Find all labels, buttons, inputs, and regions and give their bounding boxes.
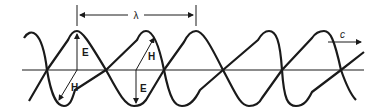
e-label-1: E	[82, 47, 89, 58]
h-label-2: H	[148, 51, 155, 62]
wavelength-dimension: λ	[77, 5, 196, 26]
h-label-1: H	[71, 82, 78, 93]
wavelength-label: λ	[134, 10, 139, 21]
em-wave-diagram: λ E H E H c	[0, 0, 381, 112]
field-vectors-1: E H	[59, 34, 89, 100]
magnetic-field-wave	[29, 31, 356, 106]
e-label-2: E	[140, 83, 147, 94]
velocity-label: c	[340, 29, 345, 40]
electric-field-wave	[24, 31, 364, 106]
